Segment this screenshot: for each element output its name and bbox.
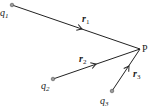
charge-q1-dot bbox=[10, 3, 14, 7]
label-r1: r1 bbox=[82, 13, 90, 26]
charge-q2-dot bbox=[51, 77, 55, 81]
label-q2: q2 bbox=[41, 80, 50, 93]
position-vector-diagram: q1 q2 q3 r1 r2 r3 P bbox=[0, 0, 151, 110]
charge-q3-dot bbox=[110, 89, 114, 93]
label-r3: r3 bbox=[133, 68, 141, 81]
vector-line-r1 bbox=[12, 5, 140, 49]
label-q3: q3 bbox=[100, 95, 109, 108]
label-point-p: P bbox=[142, 43, 148, 54]
label-r2: r2 bbox=[79, 53, 87, 66]
label-q1: q1 bbox=[0, 7, 9, 20]
